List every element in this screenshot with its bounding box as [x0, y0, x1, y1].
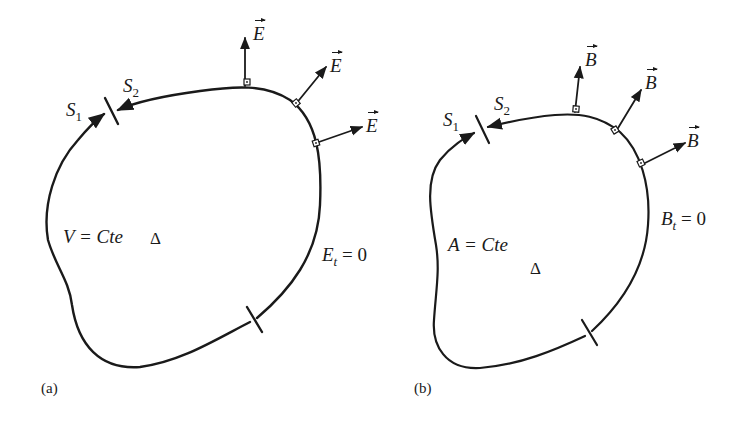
label-vector-e-2: E: [330, 56, 342, 75]
separator-tick-bottom-b: [582, 320, 597, 345]
label-vector-b-2: B: [645, 73, 657, 92]
label-domain-b: Δ: [530, 260, 541, 277]
separator-tick-top-b: [476, 116, 489, 143]
label-vector-b-1: B: [585, 50, 597, 69]
panel-label-b: (b): [414, 380, 432, 397]
normal-vector-1-b: [575, 67, 580, 112]
diagram-canvas: [0, 0, 746, 422]
normal-vector-2-b: [615, 90, 641, 133]
label-potential-condition-b: A = Cte: [448, 235, 508, 254]
label-vector-b-3: B: [687, 131, 699, 150]
boundary-s2-b: [488, 114, 648, 331]
label-potential-condition-a: V = Cte: [63, 227, 123, 246]
boundary-s2-a: [118, 87, 320, 318]
label-tangential-condition-a: Et = 0: [322, 245, 367, 264]
normal-vector-3-b: [641, 143, 685, 165]
separator-tick-bottom-a: [247, 307, 262, 332]
normal-vector-3-a: [316, 127, 362, 143]
panel-label-a: (a): [41, 380, 58, 397]
label-s2-a: S2: [123, 76, 139, 95]
figure-b: [430, 67, 685, 368]
label-vector-e-3: E: [366, 116, 378, 135]
separator-tick-top-a: [105, 98, 118, 124]
label-s1-a: S1: [66, 100, 82, 119]
label-tangential-condition-b: Bt = 0: [661, 209, 706, 228]
label-vector-e-1: E: [253, 24, 265, 43]
label-domain-a: Δ: [150, 230, 161, 247]
figure-a: [47, 38, 362, 367]
label-s2-b: S2: [494, 94, 510, 113]
normal-vector-2-a: [295, 67, 326, 105]
label-s1-b: S1: [443, 110, 459, 129]
